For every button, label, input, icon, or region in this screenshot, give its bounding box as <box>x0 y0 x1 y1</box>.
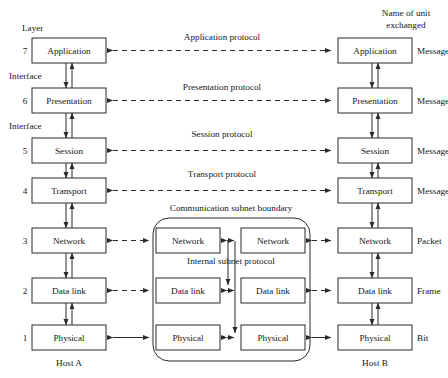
unit-label-session: Message <box>417 146 448 156</box>
unit-label-presentation: Message <box>417 96 448 106</box>
subnet-right-label-datalink: Data link <box>256 286 290 296</box>
unit-label-network: Packet <box>417 236 442 246</box>
layer-column-heading: Layer <box>22 23 43 33</box>
internal-subnet-protocol-label: Internal subnet protocol <box>187 256 275 266</box>
protocol-label-transport: Transport protocol <box>188 169 257 179</box>
protocol-label-session: Session protocol <box>192 129 253 139</box>
host-b-label-application: Application <box>353 46 397 56</box>
layer-number-1: 1 <box>23 333 28 343</box>
interface-label-7-6: Interface <box>9 71 42 81</box>
layer-number-3: 3 <box>23 236 28 246</box>
host-b-label-network: Network <box>359 236 392 246</box>
subnet-left-label-physical: Physical <box>172 333 204 343</box>
host-b-label-session: Session <box>361 146 389 156</box>
layer-number-4: 4 <box>23 186 28 196</box>
interface-label-6-5: Interface <box>9 121 42 131</box>
host-a-label: Host A <box>56 358 82 368</box>
subnet-left-label-datalink: Data link <box>171 286 205 296</box>
layer-number-6: 6 <box>23 96 28 106</box>
host-a-label-application: Application <box>47 46 91 56</box>
host-a-label-physical: Physical <box>53 333 85 343</box>
layer-row-2: 2 Data link Data link Data link Data lin… <box>23 278 441 303</box>
unit-column-heading-line1: Name of unit <box>382 8 431 18</box>
host-a-label-transport: Transport <box>51 186 87 196</box>
layer-row-5: 5 Session Session Message Session protoc… <box>23 129 448 163</box>
host-a-label-presentation: Presentation <box>46 96 92 106</box>
osi-model-diagram: Layer Name of unit exchanged 7 Applicati… <box>0 0 448 378</box>
host-a-label-network: Network <box>53 236 86 246</box>
unit-label-physical: Bit <box>417 333 429 343</box>
layer-number-2: 2 <box>23 286 28 296</box>
layer-row-3: 3 Network Network Network Network Packet <box>23 228 442 253</box>
host-b-label-datalink: Data link <box>358 286 392 296</box>
layer-row-6: 6 Presentation Presentation Message Pres… <box>23 82 448 113</box>
host-b-label-physical: Physical <box>359 333 391 343</box>
unit-column-heading-line2: exchanged <box>386 20 426 30</box>
subnet-right-label-network: Network <box>257 236 290 246</box>
unit-label-transport: Message <box>417 186 448 196</box>
unit-label-application: Message <box>417 46 448 56</box>
layer-row-1: 1 Physical Physical Physical Physical Bi… <box>23 325 429 350</box>
layer-row-7: 7 Application Application Message Applic… <box>23 32 448 63</box>
subnet-right-label-physical: Physical <box>257 333 289 343</box>
layer-row-4: 4 Transport Transport Message Transport … <box>23 169 448 203</box>
layer-number-7: 7 <box>23 46 28 56</box>
unit-label-datalink: Frame <box>417 286 440 296</box>
subnet-left-label-network: Network <box>172 236 205 246</box>
host-b-label-presentation: Presentation <box>352 96 398 106</box>
connector-2-1 <box>66 303 378 325</box>
layer-number-5: 5 <box>23 146 28 156</box>
host-a-label-session: Session <box>55 146 83 156</box>
protocol-label-application: Application protocol <box>184 32 261 42</box>
protocol-label-presentation: Presentation protocol <box>183 82 262 92</box>
host-b-label: Host B <box>362 358 388 368</box>
subnet-boundary-label: Communication subnet boundary <box>170 203 293 213</box>
host-a-label-datalink: Data link <box>52 286 86 296</box>
osi-diagram-canvas: Layer Name of unit exchanged 7 Applicati… <box>0 0 448 378</box>
host-b-label-transport: Transport <box>357 186 393 196</box>
